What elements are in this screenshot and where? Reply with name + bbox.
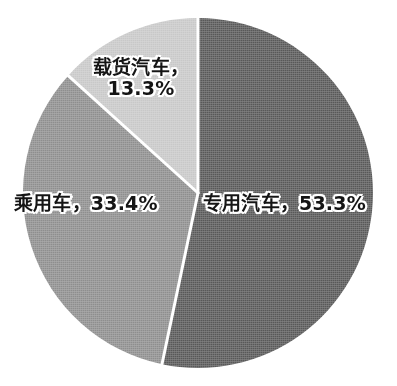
pie-label-passenger-car: 乘用车，33.4% <box>14 193 158 214</box>
pie-label-cargo-truck: 载货汽车， 13.3% <box>93 57 189 100</box>
pie-label-special-vehicle: 专用汽车，53.3% <box>203 193 366 214</box>
pie-chart: 专用汽车，53.3% 乘用车，33.4% 载货汽车， 13.3% <box>0 0 397 386</box>
